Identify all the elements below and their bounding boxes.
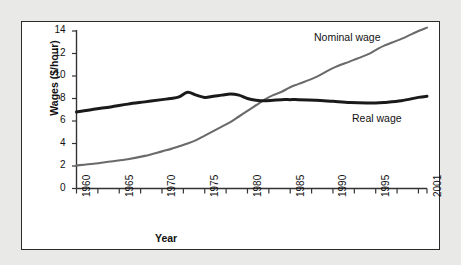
- x-axis-title: Year: [155, 232, 177, 244]
- x-tick-label: 1980: [252, 174, 263, 196]
- y-tick-label: 8: [44, 92, 66, 103]
- screenshot-root: Wages ($/hour) Year 02468101214 19601965…: [0, 0, 461, 265]
- wages-line-chart: [0, 0, 461, 265]
- x-tick-label: 1990: [337, 174, 348, 196]
- x-tick-label: 1970: [166, 174, 177, 196]
- chart-series: [77, 28, 428, 166]
- y-tick-label: 2: [44, 159, 66, 170]
- y-tick-label: 4: [44, 137, 66, 148]
- y-tick-label: 14: [44, 24, 66, 35]
- y-tick-label: 10: [44, 69, 66, 80]
- x-tick-label: 1960: [81, 174, 92, 196]
- x-tick-label: 1985: [295, 174, 306, 196]
- x-tick-label: 1995: [380, 174, 391, 196]
- y-tick-label: 6: [44, 114, 66, 125]
- series-label-nominal-wage: Nominal wage: [314, 31, 381, 43]
- x-tick-label: 2001: [432, 174, 443, 196]
- y-tick-label: 0: [44, 182, 66, 193]
- series-line-nominal-wage: [77, 28, 428, 166]
- y-tick-label: 12: [44, 47, 66, 58]
- x-tick-label: 1975: [209, 174, 220, 196]
- series-label-real-wage: Real wage: [352, 112, 402, 124]
- x-tick-label: 1965: [124, 174, 135, 196]
